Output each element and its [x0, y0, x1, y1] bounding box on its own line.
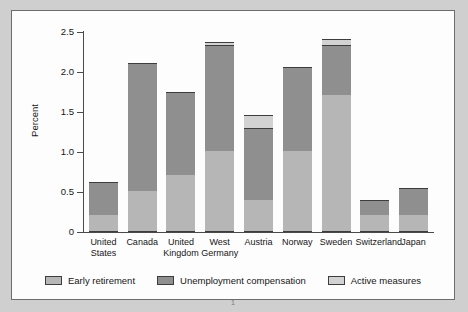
stacked-bar[interactable] [399, 189, 428, 232]
legend-swatch-early-retirement [45, 276, 62, 285]
y-axis-tick-label: 0 [69, 227, 74, 236]
bar-segment-early-retirement[interactable] [166, 175, 195, 231]
bar-segment-unemployment-compensation[interactable] [283, 67, 312, 151]
bar-segment-unemployment-compensation[interactable] [360, 200, 389, 215]
figure-footnote: 1 [12, 299, 454, 306]
y-axis-tick-label: 0.5 [61, 187, 74, 196]
bar-segment-early-retirement[interactable] [128, 191, 157, 231]
bar-segment-unemployment-compensation[interactable] [166, 92, 195, 175]
y-axis-tick-mark [77, 112, 83, 113]
x-axis-tick-label: Switzerland [355, 237, 394, 248]
x-axis-tick-label: Austria [239, 237, 278, 248]
legend-label: Early retirement [68, 275, 135, 286]
x-axis-tick-label: Norway [278, 237, 317, 248]
legend-entry[interactable]: Active measures [328, 275, 421, 286]
plot-area [84, 32, 433, 232]
bar-segment-early-retirement[interactable] [205, 151, 234, 231]
stacked-bar[interactable] [128, 64, 157, 232]
bar-segment-active-measures[interactable] [244, 115, 273, 128]
bar-group[interactable] [399, 32, 428, 232]
bar-segment-early-retirement[interactable] [283, 151, 312, 231]
stacked-bar[interactable] [360, 201, 389, 232]
stacked-bar[interactable] [244, 116, 273, 232]
stacked-bar[interactable] [166, 93, 195, 232]
bar-segment-active-measures[interactable] [205, 42, 234, 45]
bar-segment-unemployment-compensation[interactable] [128, 63, 157, 191]
y-axis-tick-mark [77, 192, 83, 193]
x-axis-tick-label: United Kingdom [162, 237, 201, 258]
bar-segment-unemployment-compensation[interactable] [244, 128, 273, 200]
bar-segment-unemployment-compensation[interactable] [399, 188, 428, 215]
y-axis-title: Percent [29, 91, 40, 151]
bar-segment-unemployment-compensation[interactable] [205, 45, 234, 151]
stacked-bar[interactable] [205, 43, 234, 232]
y-axis-tick-label: 2.0 [61, 67, 74, 76]
x-axis-line [83, 232, 434, 233]
y-axis-tick-label: 1.5 [61, 107, 74, 116]
bar-group[interactable] [244, 32, 273, 232]
y-axis-tick-mark [77, 232, 83, 233]
y-axis-tick-label: 2.5 [61, 27, 74, 36]
y-axis-tick-label: 1.0 [61, 147, 74, 156]
figure-frame: 00.51.01.52.02.5 Percent Early retiremen… [11, 10, 455, 300]
bar-group[interactable] [322, 32, 351, 232]
bar-group[interactable] [166, 32, 195, 232]
bar-segment-early-retirement[interactable] [399, 215, 428, 231]
bar-group[interactable] [128, 32, 157, 232]
y-axis-tick-mark [77, 152, 83, 153]
bar-group[interactable] [360, 32, 389, 232]
stacked-bar[interactable] [322, 40, 351, 232]
legend-swatch-active-measures [328, 276, 345, 285]
stacked-bar[interactable] [283, 68, 312, 232]
chart-legend: Early retirementUnemployment compensatio… [12, 275, 454, 286]
y-axis-tick-mark [77, 32, 83, 33]
bar-segment-early-retirement[interactable] [360, 215, 389, 231]
y-axis-tick-labels: 00.51.01.52.02.5 [42, 11, 74, 301]
legend-entry[interactable]: Unemployment compensation [157, 275, 306, 286]
x-axis-tick-label: Japan [394, 237, 433, 248]
bar-segment-unemployment-compensation[interactable] [322, 45, 351, 95]
x-axis-tick-label: United States [84, 237, 123, 258]
bar-segment-unemployment-compensation[interactable] [89, 182, 118, 215]
bar-segment-early-retirement[interactable] [322, 95, 351, 231]
bar-group[interactable] [89, 32, 118, 232]
legend-label: Active measures [351, 275, 421, 286]
y-axis-tick-mark [77, 72, 83, 73]
stacked-bar[interactable] [89, 183, 118, 232]
bar-group[interactable] [283, 32, 312, 232]
legend-swatch-unemployment-compensation [157, 276, 174, 285]
bar-segment-early-retirement[interactable] [89, 215, 118, 231]
legend-entry[interactable]: Early retirement [45, 275, 135, 286]
x-axis-tick-label: Sweden [317, 237, 356, 248]
bar-segment-active-measures[interactable] [322, 39, 351, 45]
x-axis-tick-label: Canada [123, 237, 162, 248]
bar-segment-early-retirement[interactable] [244, 200, 273, 231]
x-axis-tick-label: West Germany [200, 237, 239, 258]
legend-label: Unemployment compensation [180, 275, 306, 286]
bar-group[interactable] [205, 32, 234, 232]
